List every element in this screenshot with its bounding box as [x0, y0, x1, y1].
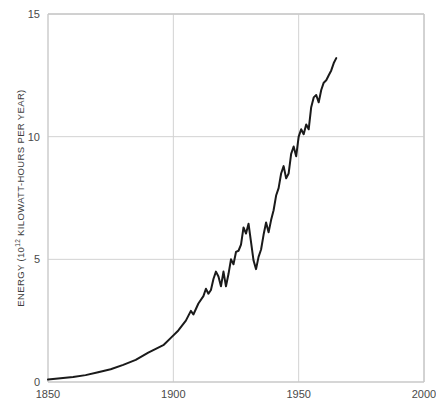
chart-canvas: 1850190019502000 051015 ENERGY (1012 KIL…	[0, 0, 436, 412]
chart-background	[0, 0, 436, 412]
x-tick-label: 2000	[412, 388, 436, 400]
y-axis-title: ENERGY (1012 KILOWATT-HOURS PER YEAR)	[14, 89, 26, 306]
y-tick-label: 5	[34, 253, 40, 265]
energy-consumption-chart: 1850190019502000 051015 ENERGY (1012 KIL…	[0, 0, 436, 412]
x-tick-label: 1850	[36, 388, 60, 400]
y-tick-label: 10	[28, 131, 40, 143]
y-tick-label: 15	[28, 8, 40, 20]
x-tick-label: 1900	[161, 388, 185, 400]
x-tick-label: 1950	[286, 388, 310, 400]
y-tick-label: 0	[34, 376, 40, 388]
